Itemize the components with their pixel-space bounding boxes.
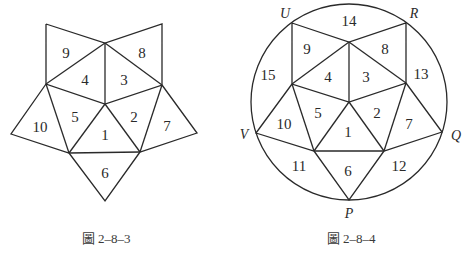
vertex-label-u: U (280, 6, 291, 21)
region-label: 10 (33, 119, 48, 135)
region-label: 15 (261, 67, 276, 83)
region-label: 12 (392, 158, 407, 174)
region-label: 8 (138, 45, 146, 61)
region-label: 7 (163, 118, 171, 134)
region-label: 14 (342, 13, 358, 29)
vertex-label-q: Q (451, 128, 461, 143)
vertex-label-p: P (344, 206, 354, 221)
region-label: 7 (405, 116, 413, 132)
region-label: 13 (414, 66, 429, 82)
region-label: 6 (101, 165, 109, 181)
region-label: 6 (344, 163, 352, 179)
vertex-label-v: V (240, 127, 250, 142)
region-label: 4 (324, 69, 332, 85)
figure-2-8-3-region-labels: 1 2 3 4 5 6 7 8 9 10 (33, 45, 172, 181)
region-label: 3 (120, 72, 128, 88)
region-label: 5 (71, 109, 79, 125)
region-label: 1 (101, 127, 109, 143)
region-label: 3 (362, 69, 370, 85)
region-label: 8 (381, 41, 389, 57)
region-label: 2 (130, 109, 138, 125)
region-label: 9 (303, 41, 311, 57)
region-label: 11 (292, 158, 306, 174)
region-label: 9 (62, 45, 70, 61)
region-label: 5 (314, 105, 322, 121)
vertex-label-r: R (409, 6, 419, 21)
figure-caption: 圖 2–8–4 (327, 231, 376, 246)
figure-2-8-4-region-labels: 1 2 3 4 5 6 7 8 9 10 11 12 13 14 15 (261, 13, 429, 179)
figure-caption: 圖 2–8–3 (82, 231, 131, 246)
region-label: 10 (277, 116, 292, 132)
region-label: 1 (344, 124, 352, 140)
figure-canvas: 1 2 3 4 5 6 7 8 9 10 圖 2–8–3 1 (0, 0, 470, 255)
region-label: 4 (81, 72, 89, 88)
figure-2-8-3: 1 2 3 4 5 6 7 8 9 10 圖 2–8–3 (11, 24, 197, 246)
figure-2-8-4: 1 2 3 4 5 6 7 8 9 10 11 12 13 14 15 U R … (240, 4, 461, 246)
region-label: 2 (373, 105, 381, 121)
